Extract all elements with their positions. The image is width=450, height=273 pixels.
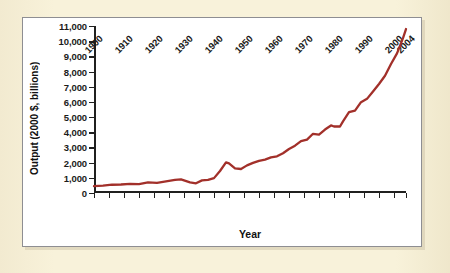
y-tick-label: 6,000 (64, 96, 87, 107)
x-tick-mark (319, 193, 320, 198)
x-tick-mark (274, 193, 275, 198)
plot-area: 01,0002,0003,0004,0005,0006,0007,0008,00… (94, 26, 406, 193)
x-tick-mark (406, 193, 407, 198)
y-tick-label: 10,000 (59, 36, 87, 47)
x-tick-mark (394, 193, 395, 198)
chart-card: Output (2000 $, billions) 01,0002,0003,0… (22, 17, 422, 247)
x-tick-mark (139, 193, 140, 198)
y-tick-label: 1,000 (64, 172, 87, 183)
series-line-chart (94, 26, 406, 193)
x-tick-mark (229, 193, 230, 198)
x-tick-mark (199, 193, 200, 198)
x-axis-title: Year (94, 228, 406, 240)
x-tick-mark (214, 193, 215, 198)
figure-root: Output (2000 $, billions) 01,0002,0003,0… (0, 0, 450, 273)
x-tick-mark (259, 193, 260, 198)
x-tick-mark (364, 193, 365, 198)
x-tick-mark (154, 193, 155, 198)
output-series-line (94, 29, 406, 186)
x-tick-mark (184, 193, 185, 198)
y-tick-label: 7,000 (64, 81, 87, 92)
y-tick-label: 4,000 (64, 127, 87, 138)
x-tick-mark (379, 193, 380, 198)
y-tick-label: 8,000 (64, 66, 87, 77)
x-tick-mark (244, 193, 245, 198)
y-tick-label: 2,000 (64, 157, 87, 168)
y-tick-label: 11,000 (59, 21, 87, 32)
x-tick-mark (349, 193, 350, 198)
y-axis-title: Output (2000 $, billions) (29, 35, 40, 202)
y-tick-label: 5,000 (64, 112, 87, 123)
x-tick-mark (94, 193, 95, 198)
x-tick-mark (289, 193, 290, 198)
y-tick-label: 0 (82, 188, 87, 199)
x-tick-mark (304, 193, 305, 198)
y-tick-label: 9,000 (64, 51, 87, 62)
x-tick-mark (169, 193, 170, 198)
y-tick-label: 3,000 (64, 142, 87, 153)
x-tick-mark (109, 193, 110, 198)
x-tick-mark (124, 193, 125, 198)
x-tick-mark (334, 193, 335, 198)
